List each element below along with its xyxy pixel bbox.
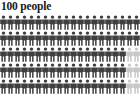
person-icon (105, 47, 112, 62)
person-icon (49, 79, 56, 94)
person-icon (21, 31, 28, 46)
person-icon (0, 63, 7, 78)
person-icon (91, 79, 98, 94)
person-icon (28, 47, 35, 62)
person-icon (35, 79, 42, 94)
person-icon (14, 47, 21, 62)
person-icon (133, 31, 140, 46)
person-icon (42, 63, 49, 78)
person-icon (77, 31, 84, 46)
person-icon (14, 15, 21, 30)
person-icon (126, 47, 133, 62)
person-icon (105, 63, 112, 78)
person-icon (133, 15, 140, 30)
person-icon (91, 47, 98, 62)
person-icon (98, 47, 105, 62)
pictogram-row (0, 63, 140, 79)
person-icon (14, 79, 21, 94)
person-icon (63, 15, 70, 30)
person-icon (56, 79, 63, 94)
person-icon (84, 63, 91, 78)
person-icon (126, 79, 133, 94)
pictogram-grid (0, 14, 140, 95)
person-icon (14, 63, 21, 78)
person-icon (119, 79, 126, 94)
person-icon (98, 31, 105, 46)
person-icon (70, 31, 77, 46)
person-icon (70, 63, 77, 78)
person-icon (56, 63, 63, 78)
person-icon (91, 31, 98, 46)
person-icon (133, 63, 140, 78)
person-icon (63, 31, 70, 46)
person-icon (105, 15, 112, 30)
person-icon (119, 63, 126, 78)
person-icon (35, 63, 42, 78)
person-icon (126, 63, 133, 78)
person-icon (77, 15, 84, 30)
person-icon (42, 79, 49, 94)
person-icon (112, 79, 119, 94)
person-icon (91, 15, 98, 30)
person-icon (98, 79, 105, 94)
pictogram-row (0, 47, 140, 63)
person-icon (35, 31, 42, 46)
person-icon (7, 47, 14, 62)
person-icon (63, 63, 70, 78)
person-icon (7, 79, 14, 94)
pictogram-row (0, 15, 140, 31)
pictogram-row (0, 79, 140, 95)
person-icon (112, 15, 119, 30)
person-icon (98, 63, 105, 78)
person-icon (14, 31, 21, 46)
person-icon (28, 63, 35, 78)
person-icon (0, 47, 7, 62)
person-icon (42, 31, 49, 46)
person-icon (77, 47, 84, 62)
person-icon (119, 47, 126, 62)
person-icon (28, 31, 35, 46)
person-icon (28, 15, 35, 30)
person-icon (70, 15, 77, 30)
person-icon (49, 31, 56, 46)
person-icon (133, 79, 140, 94)
person-icon (49, 63, 56, 78)
person-icon (105, 31, 112, 46)
person-icon (21, 15, 28, 30)
person-icon (63, 47, 70, 62)
person-icon (63, 79, 70, 94)
person-icon (35, 15, 42, 30)
person-icon (56, 15, 63, 30)
person-icon (21, 47, 28, 62)
person-icon (70, 79, 77, 94)
person-icon (49, 47, 56, 62)
person-icon (84, 15, 91, 30)
person-icon (77, 63, 84, 78)
person-icon (77, 79, 84, 94)
person-icon (56, 31, 63, 46)
person-icon (35, 47, 42, 62)
page-title: 100 people (0, 0, 140, 14)
person-icon (84, 31, 91, 46)
person-icon (119, 15, 126, 30)
pictogram-row (0, 31, 140, 47)
pictogram-infographic: 100 people (0, 0, 140, 97)
person-icon (112, 47, 119, 62)
person-icon (42, 15, 49, 30)
person-icon (119, 31, 126, 46)
person-icon (126, 31, 133, 46)
person-icon (28, 79, 35, 94)
person-icon (112, 31, 119, 46)
person-icon (21, 79, 28, 94)
person-icon (49, 15, 56, 30)
person-icon (0, 15, 7, 30)
person-icon (70, 47, 77, 62)
person-icon (7, 15, 14, 30)
person-icon (105, 79, 112, 94)
person-icon (112, 63, 119, 78)
person-icon (133, 47, 140, 62)
person-icon (7, 31, 14, 46)
person-icon (56, 47, 63, 62)
person-icon (0, 79, 7, 94)
person-icon (0, 31, 7, 46)
